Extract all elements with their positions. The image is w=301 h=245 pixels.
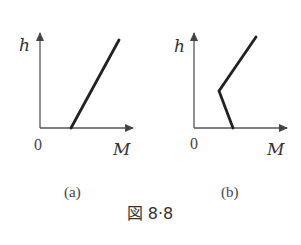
figure-8-8: h 0 M (a) h 0 M (b) 図 8·8	[0, 0, 301, 245]
panel-a: h 0 M (a)	[19, 33, 133, 201]
panel-b-x-label: M	[266, 139, 285, 159]
figure-caption: 図 8·8	[127, 204, 174, 223]
panel-a-x-label: M	[112, 139, 131, 159]
panel-a-origin-label: 0	[34, 136, 42, 153]
panel-b-y-label: h	[174, 36, 185, 56]
panel-a-y-label: h	[19, 35, 30, 55]
panel-b-curve	[219, 37, 256, 128]
panel-a-caption: (a)	[64, 184, 81, 201]
panel-b-caption: (b)	[221, 184, 239, 201]
panel-a-curve	[71, 40, 119, 128]
panel-b: h 0 M (b)	[174, 33, 287, 201]
panel-b-origin-label: 0	[190, 135, 198, 152]
